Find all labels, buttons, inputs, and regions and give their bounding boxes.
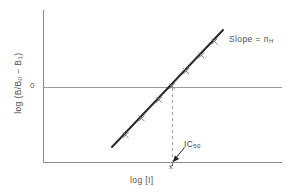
x-axis-label: log [I] [130, 175, 154, 185]
ic50-axis-tick-label: x [169, 163, 173, 170]
y-axis-label-mid: − B [13, 60, 23, 77]
y-axis-label: log (B/B0 − B1) [13, 23, 23, 143]
slope-symbol-subscript: H [269, 37, 274, 44]
logit-log-plot-figure: log (B/B0 − B1) log [I] 0 Slope = nH IC5… [0, 0, 288, 195]
y-axis-label-end: ) [13, 53, 23, 56]
ic50-arrow [173, 148, 185, 163]
y-axis-zero-tick-label: 0 [30, 81, 35, 90]
slope-annotation: Slope = nH [229, 34, 274, 44]
y-axis-label-text: log (B/B [13, 80, 23, 113]
fitted-line [112, 30, 223, 147]
y-axis-label-sub-zero: 0 [16, 77, 23, 81]
slope-annotation-text: Slope = [229, 34, 261, 44]
ic50-annotation-text: IC [184, 139, 193, 149]
ic50-annotation: IC50 [184, 139, 201, 149]
data-point-markers [123, 39, 218, 139]
y-axis-label-sub-one: 1 [16, 56, 23, 60]
ic50-annotation-subscript: 50 [193, 142, 201, 149]
plot-canvas [0, 0, 288, 195]
